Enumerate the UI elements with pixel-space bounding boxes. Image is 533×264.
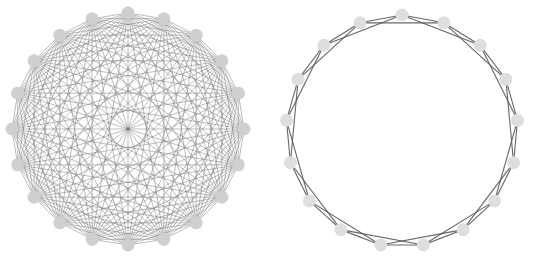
complete-graph-edges bbox=[12, 13, 244, 245]
graph-node bbox=[28, 54, 41, 67]
graph-edge bbox=[463, 163, 514, 230]
graph-edge bbox=[290, 163, 341, 230]
graph-edge bbox=[309, 201, 380, 245]
graph-node bbox=[417, 239, 430, 252]
graph-edge bbox=[12, 13, 128, 129]
graph-node bbox=[53, 29, 66, 42]
graph-node bbox=[190, 29, 203, 42]
graph-node bbox=[474, 39, 487, 52]
graph-node bbox=[86, 233, 99, 246]
graph-node bbox=[284, 156, 297, 169]
graph-node bbox=[157, 12, 170, 25]
graph-edge bbox=[444, 23, 506, 79]
graph-figure bbox=[0, 0, 533, 264]
graph-node bbox=[86, 12, 99, 25]
graph-node bbox=[122, 239, 135, 252]
graph-node bbox=[292, 73, 305, 86]
graph-edge bbox=[18, 93, 164, 239]
circulant-graph-nodes bbox=[280, 9, 524, 252]
graph-edge bbox=[92, 19, 128, 245]
complete-graph bbox=[6, 7, 251, 252]
graph-edge bbox=[60, 35, 222, 197]
graph-node bbox=[157, 233, 170, 246]
graph-node bbox=[232, 87, 245, 100]
graph-node bbox=[238, 123, 251, 136]
graph-node bbox=[215, 191, 228, 204]
graph-node bbox=[303, 194, 316, 207]
graph-edge bbox=[423, 201, 494, 245]
graph-node bbox=[122, 7, 135, 20]
graph-node bbox=[354, 16, 367, 29]
graph-node bbox=[53, 216, 66, 229]
graph-edge bbox=[60, 35, 128, 245]
graph-node bbox=[488, 194, 501, 207]
graph-node bbox=[317, 39, 330, 52]
graph-node bbox=[6, 123, 19, 136]
graph-edge bbox=[18, 35, 60, 165]
graph-edge bbox=[92, 19, 238, 165]
graph-node bbox=[374, 239, 387, 252]
graph-edge bbox=[12, 19, 92, 129]
graph-node bbox=[11, 87, 24, 100]
graph-node bbox=[190, 216, 203, 229]
graph-node bbox=[499, 73, 512, 86]
graph-edge bbox=[92, 19, 222, 61]
circulant-graph bbox=[280, 9, 524, 252]
graph-node bbox=[396, 9, 409, 22]
graph-node bbox=[507, 156, 520, 169]
graph-edge bbox=[12, 129, 128, 245]
graph-node bbox=[457, 223, 470, 236]
graph-edge bbox=[480, 45, 517, 120]
graph-node bbox=[11, 158, 24, 171]
graph-node bbox=[511, 114, 524, 127]
graph-node bbox=[280, 114, 293, 127]
graph-node bbox=[215, 54, 228, 67]
graph-node bbox=[334, 223, 347, 236]
graph-edge bbox=[286, 45, 323, 120]
graph-edge bbox=[298, 23, 360, 79]
graph-edge bbox=[128, 129, 244, 245]
graph-node bbox=[232, 158, 245, 171]
graph-node bbox=[28, 191, 41, 204]
graph-node bbox=[437, 16, 450, 29]
graph-edge bbox=[128, 13, 244, 129]
